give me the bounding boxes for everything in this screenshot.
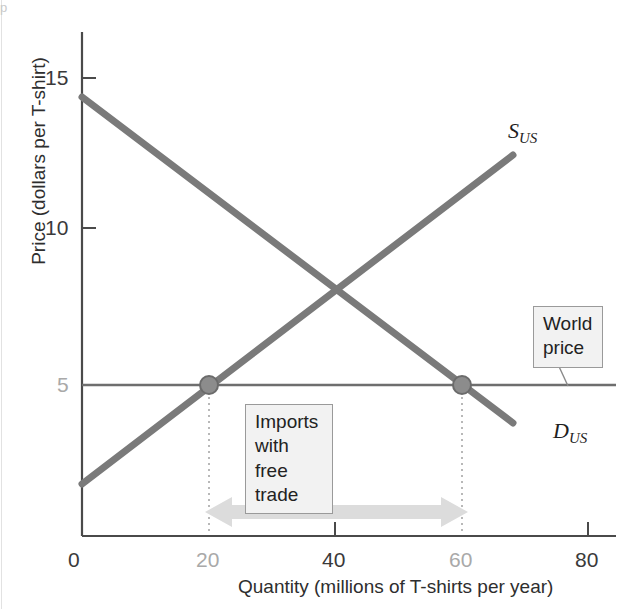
- plot-canvas: [0, 0, 626, 609]
- supply-quantity-point: [200, 376, 218, 394]
- x-tick-label-0: 0: [68, 548, 80, 572]
- demand-curve: [82, 97, 513, 423]
- demand-quantity-point: [453, 376, 471, 394]
- world-price-callout: World price: [533, 306, 603, 368]
- chart-figure: p 15 10 5 0 20 4: [0, 0, 626, 609]
- x-axis-title: Quantity (millions of T-shirts per year): [238, 576, 553, 598]
- x-tick-label-60: 60: [449, 548, 472, 572]
- supply-curve-label-sub: US: [519, 130, 537, 146]
- demand-curve-label-letter: D: [553, 418, 569, 443]
- imports-callout: Imports with free trade: [245, 404, 333, 514]
- x-tick-label-40: 40: [322, 548, 345, 572]
- y-axis-title: Price (dollars per T-shirt): [28, 36, 50, 286]
- y-tick-label-5: 5: [57, 373, 69, 397]
- supply-curve-label-letter: S: [508, 118, 519, 143]
- x-tick-label-20: 20: [196, 548, 219, 572]
- demand-curve-label-sub: US: [569, 430, 587, 446]
- x-tick-label-80: 80: [575, 548, 598, 572]
- supply-curve-label: SUS: [508, 118, 537, 147]
- demand-curve-label: DUS: [553, 418, 587, 447]
